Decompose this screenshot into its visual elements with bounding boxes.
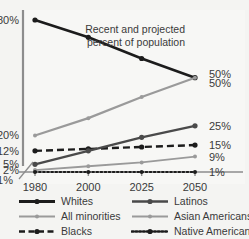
data-point (193, 155, 197, 159)
data-point (140, 95, 144, 99)
y-axis-label-left: 20% (0, 129, 19, 141)
data-point (139, 144, 144, 149)
y-axis-label-right: 25% (209, 120, 231, 132)
data-point (140, 160, 144, 164)
y-axis-label-right: 9% (209, 151, 225, 163)
legend-item-whites[interactable]: Whites (0, 194, 122, 209)
data-point (32, 162, 37, 167)
legend-swatch-latinos (131, 196, 169, 207)
data-point (86, 170, 90, 174)
x-axis-label: 2000 (76, 181, 100, 193)
legend-swatch-asian-americans (131, 211, 169, 222)
y-axis-label-right: 50% (209, 77, 231, 89)
y-axis-label-left: 80% (0, 14, 19, 26)
chart-annotation: percent of population (87, 36, 185, 48)
legend-label-all-minorities: All minorities (61, 211, 121, 222)
legend-item-all-minorities[interactable]: All minorities (0, 209, 122, 224)
legend-swatch-all-minorities (18, 211, 56, 222)
data-point (140, 170, 144, 174)
legend-item-latinos[interactable]: Latinos (122, 194, 249, 209)
data-point (193, 76, 197, 80)
chart-annotation: Recent and projected (85, 23, 185, 35)
legend-label-blacks: Blacks (61, 226, 92, 237)
x-axis-label: 2025 (129, 181, 153, 193)
legend-swatch-blacks (18, 226, 56, 237)
legend-item-native-americans[interactable]: Native Americans (122, 224, 249, 239)
legend-label-whites: Whites (61, 196, 93, 207)
data-point (192, 123, 197, 128)
data-point (86, 116, 90, 120)
legend-label-asian-americans: Asian Americans (174, 211, 249, 222)
chart-legend: Whites Latinos All minorities Asian Amer… (0, 194, 249, 239)
x-axis-label: 2050 (183, 181, 207, 193)
data-point (192, 142, 197, 147)
legend-item-blacks[interactable]: Blacks (0, 224, 122, 239)
data-point (193, 170, 197, 174)
population-projection-chart: 80%20%12%5%2%1%50%50%25%15%9%1%198020002… (0, 0, 249, 239)
x-axis-label: 1980 (23, 181, 47, 193)
y-axis-label-right: 1% (209, 166, 225, 178)
legend-swatch-native-americans (131, 226, 169, 237)
data-point (32, 148, 37, 153)
y-axis-label-right: 15% (209, 139, 231, 151)
y-axis-label-left: 1% (0, 174, 13, 186)
legend-label-latinos: Latinos (174, 196, 208, 207)
y-axis-label-left: 12% (0, 145, 19, 157)
data-point (86, 164, 90, 168)
data-point (32, 17, 37, 22)
data-point (139, 135, 144, 140)
data-point (33, 133, 37, 137)
legend-swatch-whites (18, 196, 56, 207)
legend-label-native-americans: Native Americans (174, 226, 249, 237)
data-point (33, 170, 37, 174)
data-point (86, 148, 91, 153)
legend-item-asian-americans[interactable]: Asian Americans (122, 209, 249, 224)
data-point (139, 56, 144, 61)
